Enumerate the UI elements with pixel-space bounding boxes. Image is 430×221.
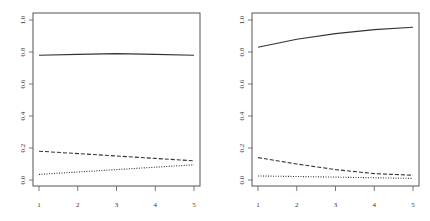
y-tick-label: 0.6	[19, 79, 27, 88]
y-tick-label: 0.0	[238, 175, 246, 184]
series-dashed-line	[39, 151, 194, 161]
series-dotted-line	[39, 165, 194, 175]
x-tick-label: 4	[154, 201, 158, 209]
plot-panel-2: 0.00.20.40.60.81.012345	[238, 13, 419, 209]
x-tick-label: 4	[373, 201, 377, 209]
y-tick-label: 1.0	[238, 15, 246, 24]
x-tick-label: 3	[115, 201, 119, 209]
y-tick-label: 1.0	[19, 15, 27, 24]
x-tick-label: 2	[76, 201, 80, 209]
x-tick-label: 3	[334, 201, 338, 209]
y-tick-label: 0.4	[238, 111, 246, 120]
plot-frame	[252, 13, 419, 186]
series-solid-line	[258, 27, 413, 47]
series-dotted-line	[258, 176, 413, 178]
series-solid-line	[39, 54, 194, 56]
y-tick-label: 0.6	[238, 79, 246, 88]
x-tick-label: 5	[192, 201, 196, 209]
y-tick-label: 0.4	[19, 111, 27, 120]
x-tick-label: 5	[411, 201, 415, 209]
y-tick-label: 0.2	[19, 143, 27, 152]
x-tick-label: 1	[37, 201, 41, 209]
y-tick-label: 0.8	[19, 47, 27, 56]
y-tick-label: 0.8	[238, 47, 246, 56]
x-tick-label: 1	[256, 201, 260, 209]
y-tick-label: 0.0	[19, 175, 27, 184]
y-tick-label: 0.2	[238, 143, 246, 152]
chart-canvas: 0.00.20.40.60.81.0123450.00.20.40.60.81.…	[0, 0, 430, 221]
series-dashed-line	[258, 158, 413, 176]
plot-frame	[33, 13, 200, 186]
x-tick-label: 2	[295, 201, 299, 209]
plot-panel-1: 0.00.20.40.60.81.012345	[19, 13, 200, 209]
